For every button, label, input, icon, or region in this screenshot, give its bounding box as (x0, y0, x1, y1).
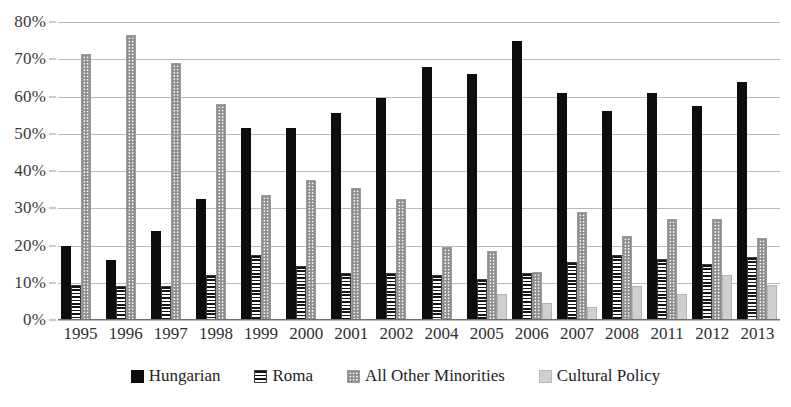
bar-cultural-2005 (497, 294, 507, 320)
y-axis-tick-mark (49, 245, 56, 246)
y-axis-tick-mark (49, 282, 56, 283)
legend-item-hungarian[interactable]: Hungarian (131, 366, 221, 386)
legend-label-roma: Roma (272, 366, 313, 386)
bar-aom-2013 (757, 238, 767, 320)
bar-aom-1998 (216, 104, 226, 320)
legend-swatch-aom-icon (347, 370, 360, 383)
y-axis-tick-label: 70% (14, 49, 46, 69)
legend-item-cultural[interactable]: Cultural Policy (539, 366, 660, 386)
bar-group-2001 (329, 22, 374, 320)
bar-group-1996 (103, 22, 148, 320)
bar-hungarian-1995 (61, 246, 71, 321)
bar-hungarian-2002 (376, 98, 386, 320)
y-axis-tick-mark (49, 320, 56, 321)
bar-hungarian-2013 (737, 82, 747, 320)
bar-roma-2006 (522, 273, 532, 320)
bar-roma-2001 (341, 273, 351, 320)
bar-group-1995 (58, 22, 103, 320)
x-axis-labels: 1995199619971998199920002001200220042005… (58, 324, 780, 354)
bar-roma-2002 (386, 273, 396, 320)
bar-aom-2001 (351, 188, 361, 320)
bar-group-2013 (735, 22, 780, 320)
bar-roma-2011 (657, 259, 667, 320)
bar-group-1998 (193, 22, 238, 320)
y-axis-tick-mark (49, 96, 56, 97)
x-axis-label-2011: 2011 (645, 324, 690, 354)
plot-area (58, 22, 780, 320)
bar-group-2007 (554, 22, 599, 320)
x-axis-label-2004: 2004 (419, 324, 464, 354)
bar-group-1999 (239, 22, 284, 320)
y-axis-tick-label: 80% (14, 12, 46, 32)
bar-aom-1996 (126, 35, 136, 320)
bar-aom-2004 (442, 247, 452, 320)
x-axis-label-2002: 2002 (374, 324, 419, 354)
bar-roma-2004 (432, 275, 442, 320)
bar-roma-1996 (116, 286, 126, 320)
y-axis-tick-label: 0% (23, 310, 46, 330)
bar-hungarian-1997 (151, 231, 161, 320)
x-axis-label-2001: 2001 (329, 324, 374, 354)
bar-hungarian-2006 (512, 41, 522, 320)
x-axis-label-1998: 1998 (193, 324, 238, 354)
bar-roma-2012 (702, 264, 712, 320)
legend-label-hungarian: Hungarian (149, 366, 221, 386)
bar-aom-2006 (532, 272, 542, 320)
bar-roma-2000 (296, 266, 306, 320)
bar-hungarian-2011 (647, 93, 657, 320)
bar-cultural-2008 (632, 286, 642, 320)
y-axis-tick-mark (49, 59, 56, 60)
bar-groups (58, 22, 780, 320)
x-axis-label-1997: 1997 (148, 324, 193, 354)
bar-aom-1995 (81, 54, 91, 320)
bar-hungarian-2000 (286, 128, 296, 320)
x-axis-label-2005: 2005 (464, 324, 509, 354)
bar-hungarian-1999 (241, 128, 251, 320)
y-axis-tick-mark (49, 171, 56, 172)
bar-aom-2012 (712, 219, 722, 320)
legend-item-aom[interactable]: All Other Minorities (347, 366, 505, 386)
bar-group-2000 (284, 22, 329, 320)
bar-group-2002 (374, 22, 419, 320)
x-axis-line (58, 319, 780, 320)
legend-label-cultural: Cultural Policy (557, 366, 660, 386)
bar-aom-2005 (487, 251, 497, 320)
bar-roma-1998 (206, 275, 216, 320)
bar-cultural-2006 (542, 303, 552, 320)
x-axis-label-2013: 2013 (735, 324, 780, 354)
bar-group-2006 (509, 22, 554, 320)
bar-hungarian-2007 (557, 93, 567, 320)
bar-aom-2002 (396, 199, 406, 320)
bar-cultural-2013 (767, 285, 777, 320)
x-axis-label-2006: 2006 (509, 324, 554, 354)
y-axis-tick-label: 50% (14, 124, 46, 144)
bar-chart: 0%10%20%30%40%50%60%70%80% 1995199619971… (0, 0, 791, 407)
y-axis-tick-label: 20% (14, 236, 46, 256)
y-axis-tick-mark (49, 133, 56, 134)
x-axis-label-2012: 2012 (690, 324, 735, 354)
y-axis-tick-label: 10% (14, 273, 46, 293)
chart-legend: HungarianRomaAll Other MinoritiesCultura… (0, 366, 791, 386)
legend-swatch-hungarian-icon (131, 370, 144, 383)
bar-roma-2007 (567, 262, 577, 320)
bar-hungarian-2004 (422, 67, 432, 320)
bar-group-2008 (600, 22, 645, 320)
bar-aom-1997 (171, 63, 181, 320)
gridline (58, 320, 780, 321)
legend-item-roma[interactable]: Roma (254, 366, 313, 386)
bar-roma-2013 (747, 257, 757, 320)
x-axis-label-1996: 1996 (103, 324, 148, 354)
bar-aom-2007 (577, 212, 587, 320)
x-axis-label-2007: 2007 (554, 324, 599, 354)
bar-group-1997 (148, 22, 193, 320)
bar-hungarian-2005 (467, 74, 477, 320)
bar-roma-1999 (251, 255, 261, 320)
bar-group-2012 (690, 22, 735, 320)
y-axis-tick-mark (49, 22, 56, 23)
bar-aom-1999 (261, 195, 271, 320)
x-axis-label-1999: 1999 (239, 324, 284, 354)
legend-label-aom: All Other Minorities (365, 366, 505, 386)
bar-hungarian-1996 (106, 260, 116, 320)
bar-aom-2000 (306, 180, 316, 320)
bar-group-2011 (645, 22, 690, 320)
